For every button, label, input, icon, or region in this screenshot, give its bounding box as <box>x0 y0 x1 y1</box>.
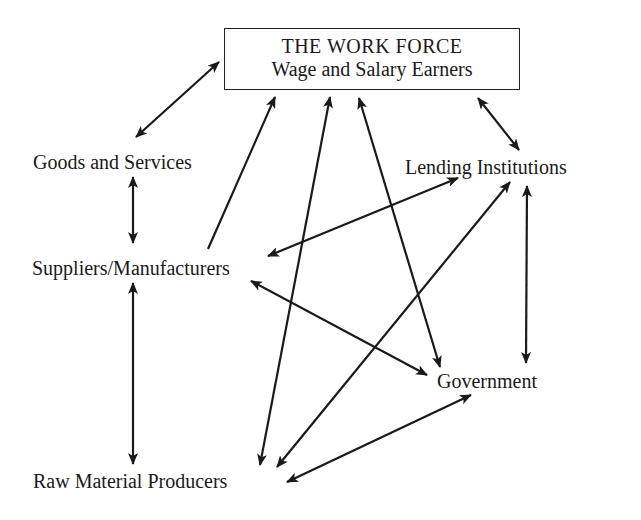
arrow-suppliers-lending <box>268 178 458 256</box>
arrow-goods-workforce <box>136 62 219 137</box>
node-suppliers-manufacturers: Suppliers/Manufacturers <box>32 256 230 280</box>
node-lending-institutions: Lending Institutions <box>405 155 567 179</box>
node-raw-material-producers: Raw Material Producers <box>33 469 227 493</box>
arrow-lending-government <box>526 186 527 363</box>
work-force-title: THE WORK FORCE <box>225 35 519 57</box>
node-goods-and-services: Goods and Services <box>33 150 192 174</box>
work-force-box: THE WORK FORCE Wage and Salary Earners <box>224 28 520 90</box>
node-government: Government <box>437 369 537 393</box>
arrow-raw-government <box>287 395 471 482</box>
arrow-suppliers-workforce <box>208 97 275 249</box>
arrow-government-workforce <box>359 98 440 367</box>
work-force-subtitle: Wage and Salary Earners <box>225 57 519 81</box>
arrow-suppliers-government <box>251 281 427 375</box>
arrow-workforce-lending <box>478 98 519 150</box>
arrow-raw-lending <box>277 182 510 467</box>
arrow-raw-workforce <box>260 97 330 465</box>
